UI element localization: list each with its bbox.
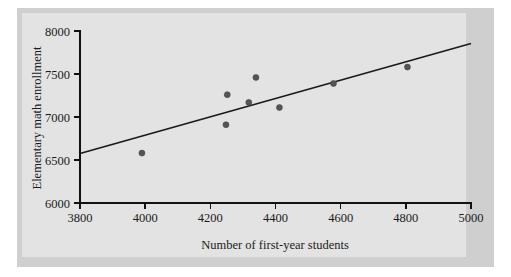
x-tick-label-4800: 4800 (393, 211, 418, 225)
x-axis-title: Number of first-year students (201, 238, 349, 252)
trend-line (80, 43, 471, 153)
x-tick-label-4200: 4200 (198, 211, 223, 225)
tick-labels-group: 6000650070007500800038004000420044004600… (45, 25, 484, 226)
x-tick-label-4400: 4400 (263, 211, 288, 225)
scatter-plot: 6000650070007500800038004000420044004600… (0, 0, 511, 277)
y-tick-label-7000: 7000 (45, 111, 70, 125)
y-tick-label-7500: 7500 (45, 68, 70, 82)
data-point: 4412, 7110 (276, 105, 282, 111)
y-tick-label-8000: 8000 (45, 25, 70, 39)
y-tick-label-6000: 6000 (45, 197, 70, 211)
x-tick-label-4000: 4000 (133, 211, 158, 225)
data-point: 3990, 6580 (139, 150, 145, 156)
data-point: 4252, 7260 (224, 92, 230, 98)
axes-group (80, 30, 472, 203)
data-point: 4248, 6910 (223, 122, 229, 128)
y-tick-label-6500: 6500 (45, 154, 70, 168)
trend-line-group (80, 43, 471, 153)
data-point: 4805, 7580 (404, 64, 410, 70)
data-point: 4578, 7390 (330, 80, 336, 86)
y-axis-title: Elementary math enrollment (30, 46, 44, 190)
figure-page: 6000650070007500800038004000420044004600… (0, 0, 511, 277)
x-tick-label-3800: 3800 (68, 211, 93, 225)
data-point: 4340, 7460 (253, 74, 259, 80)
ticks-group (74, 31, 471, 209)
x-tick-label-5000: 5000 (459, 211, 484, 225)
data-points-group: 3990, 65804248, 69104252, 72604318, 7170… (139, 64, 411, 156)
data-point: 4318, 7170 (246, 99, 252, 105)
x-tick-label-4600: 4600 (328, 211, 353, 225)
